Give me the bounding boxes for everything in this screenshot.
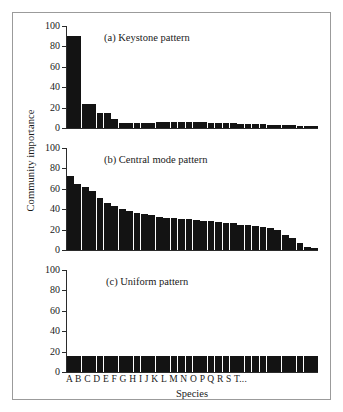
- bar: [193, 356, 200, 372]
- bar: [237, 124, 244, 128]
- y-tick-label: 80: [34, 41, 60, 51]
- bar: [304, 126, 311, 128]
- bar: [134, 356, 141, 372]
- bar: [82, 104, 89, 128]
- bar: [186, 356, 193, 372]
- bar: [289, 125, 296, 128]
- bar: [208, 221, 215, 250]
- bar: [171, 356, 178, 372]
- bar: [126, 211, 133, 250]
- bar: [200, 356, 207, 372]
- bar: [186, 122, 193, 128]
- y-tick-label: 40: [34, 204, 60, 214]
- bar: [230, 123, 237, 128]
- bar: [282, 125, 289, 128]
- bar: [82, 187, 89, 250]
- bar: [97, 113, 104, 128]
- bar: [126, 356, 133, 372]
- bar: [230, 223, 237, 250]
- y-tick-label: 100: [34, 143, 60, 153]
- bar: [148, 123, 155, 128]
- bar: [245, 356, 252, 372]
- y-tick-label: 100: [34, 265, 60, 275]
- bar: [171, 122, 178, 128]
- y-tick-label: 20: [34, 103, 60, 113]
- bar: [141, 356, 148, 372]
- bar: [245, 225, 252, 251]
- bar: [74, 356, 81, 372]
- bar: [267, 356, 274, 372]
- y-tick-label: 40: [34, 326, 60, 336]
- bar: [74, 184, 81, 250]
- bar: [304, 247, 311, 250]
- bar: [297, 356, 304, 372]
- y-tick-mark: [62, 189, 66, 190]
- bar: [119, 209, 126, 250]
- y-tick-mark: [62, 46, 66, 47]
- bar: [141, 214, 148, 250]
- bar: [89, 356, 96, 372]
- bar: [260, 227, 267, 250]
- y-tick-mark: [62, 250, 66, 251]
- bar: [274, 125, 281, 128]
- y-tick-label: 0: [34, 367, 60, 377]
- y-tick-mark: [62, 168, 66, 169]
- plot-area-b: [66, 148, 318, 251]
- bar: [141, 123, 148, 128]
- bar: [223, 356, 230, 372]
- bar: [171, 218, 178, 250]
- bar: [97, 356, 104, 372]
- x-axis-line-c: [66, 372, 318, 373]
- y-tick-mark: [62, 209, 66, 210]
- bar: [237, 356, 244, 372]
- bar: [111, 356, 118, 372]
- bar: [260, 356, 267, 372]
- bar: [119, 123, 126, 128]
- bar: [200, 221, 207, 250]
- bar: [134, 213, 141, 250]
- figure-container: Community importance (a) Keystone patter…: [0, 0, 343, 412]
- bar: [156, 356, 163, 372]
- bar: [267, 125, 274, 128]
- bar: [104, 203, 111, 250]
- bar: [223, 223, 230, 250]
- bar: [67, 356, 74, 372]
- y-tick-label: 60: [34, 306, 60, 316]
- bar: [215, 222, 222, 250]
- y-tick-labels-c: 020406080100: [30, 270, 60, 373]
- y-tick-mark: [62, 148, 66, 149]
- bar: [111, 206, 118, 250]
- bar: [163, 356, 170, 372]
- y-tick-mark: [62, 87, 66, 88]
- bar: [178, 219, 185, 250]
- bar: [74, 36, 81, 128]
- y-tick-mark: [62, 311, 66, 312]
- y-tick-label: 0: [34, 123, 60, 133]
- y-tick-label: 80: [34, 163, 60, 173]
- bar: [215, 356, 222, 372]
- panel-uniform: (c) Uniform pattern 020406080100: [0, 262, 343, 382]
- bar: [289, 238, 296, 250]
- bar: [230, 356, 237, 372]
- bar: [104, 356, 111, 372]
- bar: [156, 217, 163, 250]
- bar-series-a: [67, 26, 318, 128]
- panel-keystone: (a) Keystone pattern 020406080100: [0, 18, 343, 138]
- bar: [252, 356, 259, 372]
- bar: [104, 113, 111, 128]
- bar: [311, 126, 318, 128]
- bar: [311, 356, 318, 372]
- bar-series-b: [67, 148, 318, 250]
- bar: [178, 356, 185, 372]
- bar: [126, 123, 133, 128]
- y-tick-label: 80: [34, 285, 60, 295]
- bar: [245, 124, 252, 128]
- bar: [193, 220, 200, 250]
- plot-area-a: [66, 26, 318, 129]
- y-tick-label: 20: [34, 225, 60, 235]
- y-tick-mark: [62, 270, 66, 271]
- bar: [223, 123, 230, 128]
- bar: [267, 228, 274, 250]
- y-tick-label: 40: [34, 82, 60, 92]
- x-tick-labels: A B C D E F G H I J K L M N O P Q R S T.…: [66, 374, 318, 384]
